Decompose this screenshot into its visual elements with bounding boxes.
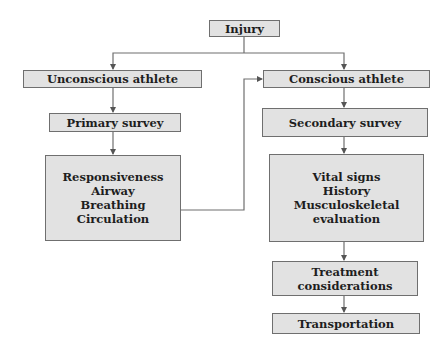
edge-injury-to-conscious — [244, 53, 344, 69]
edge-abc-to-conscious — [181, 79, 262, 210]
node-label-line: Injury — [225, 22, 264, 36]
node-transportation: Transportation — [272, 313, 420, 334]
node-label-line: Airway — [63, 184, 164, 198]
node-label: ResponsivenessAirwayBreathingCirculation — [63, 170, 164, 226]
node-unconscious-athlete: Unconscious athlete — [23, 70, 202, 88]
node-label: Unconscious athlete — [47, 72, 178, 86]
node-secondary-survey: Secondary survey — [262, 108, 428, 137]
node-label-line: Primary survey — [66, 116, 163, 130]
node-secondary-assessment: Vital signsHistoryMusculoskeletalevaluat… — [269, 154, 424, 242]
node-primary-assessment: ResponsivenessAirwayBreathingCirculation — [45, 155, 181, 241]
node-label: Secondary survey — [289, 116, 401, 130]
node-label-line: Treatment — [298, 265, 393, 279]
node-label-line: Secondary survey — [289, 116, 401, 130]
node-label-line: Responsiveness — [63, 170, 164, 184]
node-label: Primary survey — [66, 116, 163, 130]
node-label-line: History — [294, 184, 400, 198]
node-label-line: Vital signs — [294, 170, 400, 184]
node-label: Treatmentconsiderations — [298, 265, 393, 293]
node-label: Injury — [225, 22, 264, 36]
flowchart-canvas: Injury Unconscious athlete Conscious ath… — [0, 0, 447, 358]
node-label: Transportation — [298, 317, 394, 331]
node-label: Vital signsHistoryMusculoskeletalevaluat… — [294, 170, 400, 226]
node-label-line: Circulation — [63, 212, 164, 226]
node-label: Conscious athlete — [289, 72, 404, 86]
node-label-line: Transportation — [298, 317, 394, 331]
node-label-line: Conscious athlete — [289, 72, 404, 86]
node-label-line: Musculoskeletal — [294, 198, 400, 212]
node-treatment-considerations: Treatmentconsiderations — [272, 261, 418, 296]
node-label-line: evaluation — [294, 212, 400, 226]
node-label-line: Breathing — [63, 198, 164, 212]
node-injury: Injury — [209, 20, 280, 37]
node-conscious-athlete: Conscious athlete — [263, 70, 430, 88]
node-label-line: considerations — [298, 279, 393, 293]
edge-injury-to-unconscious — [113, 53, 244, 69]
node-label-line: Unconscious athlete — [47, 72, 178, 86]
node-primary-survey: Primary survey — [49, 113, 181, 132]
